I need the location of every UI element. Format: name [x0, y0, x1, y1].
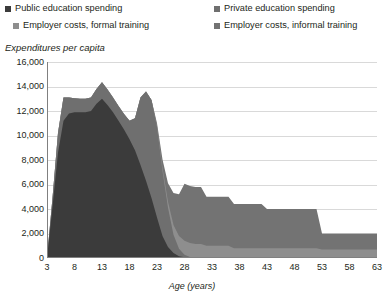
legend-label: Private education spending: [224, 4, 335, 13]
x-axis-tick-label: 63: [364, 263, 384, 272]
chart-legend: Public education spending Private educat…: [0, 0, 384, 38]
x-axis-title: Age (years): [0, 281, 384, 291]
plot-svg: [47, 62, 377, 258]
legend-item-public-education-spending[interactable]: Public education spending: [5, 4, 122, 13]
x-axis-tick-label: 3: [34, 263, 60, 272]
y-axis-tick-label: 0: [2, 254, 44, 263]
legend-item-employer-costs-informal-training[interactable]: Employer costs, informal training: [214, 21, 357, 30]
square-marker-icon: [13, 23, 19, 29]
legend-label: Employer costs, informal training: [224, 21, 357, 30]
y-axis-tick-label: 10,000: [2, 131, 44, 140]
plot-area: [47, 62, 377, 258]
y-axis-tick-label: 8,000: [2, 156, 44, 165]
y-axis-title: Expenditures per capita: [5, 42, 105, 53]
y-axis-tick-label: 16,000: [2, 58, 44, 67]
legend-item-employer-costs-formal-training[interactable]: Employer costs, formal training: [13, 21, 149, 30]
x-axis-tick-label: 23: [144, 263, 170, 272]
x-axis-tick-label: 28: [172, 263, 198, 272]
x-axis-tick-label: 8: [62, 263, 88, 272]
square-marker-icon: [214, 23, 220, 29]
y-axis-tick-label: 6,000: [2, 180, 44, 189]
y-axis-tick-label: 2,000: [2, 229, 44, 238]
x-axis-tick-label: 48: [282, 263, 308, 272]
y-axis-tick-label: 12,000: [2, 107, 44, 116]
x-axis-tick-label: 18: [117, 263, 143, 272]
x-axis-tick-label: 38: [227, 263, 253, 272]
stacked-area-chart: Public education spending Private educat…: [0, 0, 384, 298]
x-axis-tick-label: 43: [254, 263, 280, 272]
y-axis-tick-label: 4,000: [2, 205, 44, 214]
x-axis-tick-label: 13: [89, 263, 115, 272]
x-axis-tick-label: 33: [199, 263, 225, 272]
series-areas: [47, 82, 377, 258]
square-marker-icon: [214, 6, 220, 12]
legend-label: Public education spending: [15, 4, 122, 13]
square-marker-icon: [5, 6, 11, 12]
y-axis-tick-label: 14,000: [2, 82, 44, 91]
legend-label: Employer costs, formal training: [23, 21, 149, 30]
legend-item-private-education-spending[interactable]: Private education spending: [214, 4, 335, 13]
x-axis-tick-label: 58: [337, 263, 363, 272]
x-axis-tick-label: 53: [309, 263, 335, 272]
